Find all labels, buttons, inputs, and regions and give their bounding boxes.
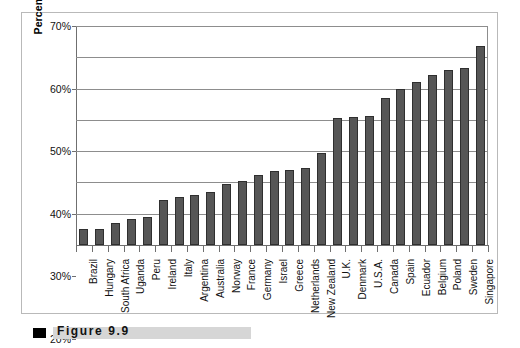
bar xyxy=(95,229,104,245)
x-axis-label: Brazil xyxy=(88,259,99,284)
x-axis-label: Norway xyxy=(231,259,242,293)
x-tick-mark xyxy=(108,245,109,252)
y-tick-label: 50% xyxy=(50,145,71,157)
bar xyxy=(175,197,184,245)
bar xyxy=(381,98,390,245)
x-axis-label: Sweden xyxy=(468,259,479,295)
bar xyxy=(159,200,168,245)
x-tick-mark xyxy=(155,245,156,252)
bar xyxy=(238,181,247,245)
x-axis-label: Netherlands xyxy=(310,259,321,313)
bar xyxy=(476,46,485,245)
bar xyxy=(206,192,215,245)
x-axis-label: Hungary xyxy=(104,259,115,297)
x-tick-mark xyxy=(345,245,346,252)
x-axis-labels: BrazilHungarySouth AfricaUgandaPeruIrela… xyxy=(76,259,488,323)
x-tick-mark xyxy=(234,245,235,252)
figure-container: Percent of Nascents 0%10%20%30%40%50%60%… xyxy=(0,0,520,348)
x-tick-mark xyxy=(203,245,204,252)
bar xyxy=(428,75,437,246)
x-axis-label: Canada xyxy=(389,259,400,294)
x-tick-mark xyxy=(171,245,172,252)
x-tick-mark xyxy=(409,245,410,252)
x-tick-mark xyxy=(425,245,426,252)
x-tick-mark xyxy=(187,245,188,252)
x-axis-label: Ecuador xyxy=(421,259,432,296)
bar xyxy=(365,116,374,245)
bars-layer xyxy=(76,26,488,245)
bar xyxy=(254,175,263,245)
x-axis-label: Germany xyxy=(262,259,273,300)
bar xyxy=(301,168,310,245)
x-tick-mark xyxy=(314,245,315,252)
y-tick-label: 30% xyxy=(50,270,71,282)
square-bullet-icon xyxy=(33,328,46,338)
bar xyxy=(396,89,405,245)
caption-label: Figure 9.9 xyxy=(57,324,130,338)
x-axis-label: U.S.A. xyxy=(373,259,384,288)
y-tick-label: 40% xyxy=(50,208,71,220)
x-tick-mark xyxy=(361,245,362,252)
x-axis-label: Peru xyxy=(151,259,162,280)
x-tick-mark xyxy=(488,245,489,252)
bar xyxy=(222,184,231,245)
x-axis-label: Greece xyxy=(294,259,305,292)
x-axis-label: Ireland xyxy=(167,259,178,290)
x-axis-label: Uganda xyxy=(135,259,146,294)
bar xyxy=(333,118,342,245)
plot-area: 0%10%20%30%40%50%60%70% xyxy=(76,26,488,245)
bar xyxy=(460,68,469,245)
x-tick-mark xyxy=(250,245,251,252)
x-tick-mark xyxy=(124,245,125,252)
bar xyxy=(143,217,152,245)
x-tick-mark xyxy=(472,245,473,252)
bar xyxy=(349,117,358,245)
x-axis-label: Belgium xyxy=(437,259,448,295)
x-axis-label: Denmark xyxy=(357,259,368,300)
x-tick-mark xyxy=(219,245,220,252)
bar xyxy=(111,223,120,245)
figure-caption: Figure 9.9 xyxy=(21,323,498,343)
x-tick-mark xyxy=(92,245,93,252)
x-tick-mark xyxy=(456,245,457,252)
y-axis-title: Percent of Nascents xyxy=(31,0,45,58)
bar xyxy=(270,171,279,245)
x-tick-mark xyxy=(440,245,441,252)
x-tick-mark xyxy=(298,245,299,252)
x-axis-label: Israel xyxy=(278,259,289,283)
x-axis-label: Spain xyxy=(405,259,416,285)
x-axis-label: New Zealand xyxy=(326,259,337,318)
x-tick-mark xyxy=(330,245,331,252)
x-axis-ticks xyxy=(76,245,488,252)
x-axis-label: Poland xyxy=(452,259,463,290)
bar xyxy=(190,195,199,245)
bar xyxy=(412,82,421,245)
bar xyxy=(317,153,326,245)
chart-panel: Percent of Nascents 0%10%20%30%40%50%60%… xyxy=(21,12,498,314)
x-axis-label: Singapore xyxy=(484,259,495,305)
x-tick-mark xyxy=(377,245,378,252)
x-axis-label: Argentina xyxy=(199,259,210,302)
x-axis-label: U.K. xyxy=(341,259,352,278)
y-tick-label: 60% xyxy=(50,83,71,95)
bar xyxy=(127,219,136,245)
bar xyxy=(79,229,88,245)
y-tick-label: 70% xyxy=(50,20,71,32)
x-axis-label: South Africa xyxy=(120,259,131,313)
x-axis-label: Australia xyxy=(215,259,226,298)
bar xyxy=(444,70,453,245)
x-tick-mark xyxy=(393,245,394,252)
x-axis-label: Italy xyxy=(183,259,194,277)
x-tick-mark xyxy=(76,245,77,252)
bar xyxy=(285,170,294,245)
x-axis-label: France xyxy=(246,259,257,290)
x-tick-mark xyxy=(139,245,140,252)
x-tick-mark xyxy=(266,245,267,252)
x-tick-mark xyxy=(282,245,283,252)
